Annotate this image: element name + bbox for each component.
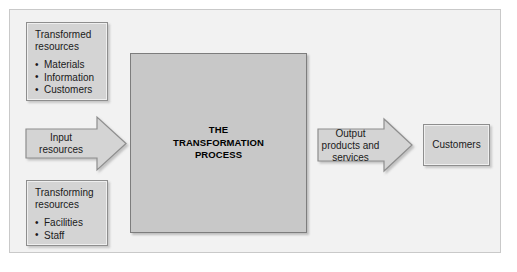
output-products-arrow: Output products and services (317, 118, 415, 173)
transformed-resources-box: Transformed resources Materials Informat… (26, 22, 108, 101)
list-item: Materials (35, 59, 100, 72)
diagram-canvas: Transformed resources Materials Informat… (0, 0, 517, 272)
list-item: Information (35, 72, 100, 85)
list-item: Staff (35, 230, 100, 243)
transforming-resources-title: Transforming resources (35, 187, 100, 211)
input-resources-arrow: Input resources (25, 116, 129, 172)
input-arrow-shape (25, 116, 129, 172)
transformed-resources-title: Transformed resources (35, 29, 100, 53)
list-item: Facilities (35, 217, 100, 230)
output-arrow-shape (317, 118, 415, 173)
transforming-resources-list: Facilities Staff (35, 217, 100, 242)
transformed-resources-list: Materials Information Customers (35, 59, 100, 97)
transformation-process-box: THE TRANSFORMATION PROCESS (130, 53, 307, 233)
customers-label: Customers (432, 139, 480, 151)
customers-box: Customers (423, 124, 490, 166)
transformation-process-label: THE TRANSFORMATION PROCESS (173, 124, 264, 162)
transforming-resources-box: Transforming resources Facilities Staff (26, 180, 108, 246)
list-item: Customers (35, 84, 100, 97)
